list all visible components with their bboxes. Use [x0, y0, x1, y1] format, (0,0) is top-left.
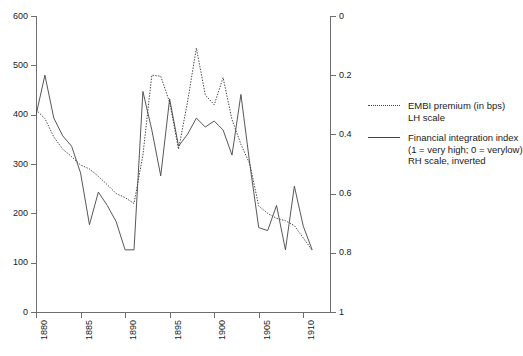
- chart-root: 0100200300400500600 00.20.40.60.81 18801…: [0, 0, 523, 356]
- tick-label: 0: [339, 12, 344, 21]
- tick-label: 600: [2, 12, 28, 21]
- tick-label: 1880: [40, 320, 49, 340]
- tick-mark: [36, 313, 37, 318]
- tick-mark: [259, 313, 260, 318]
- legend-item-financial-integration: Financial integration index (1 = very hi…: [368, 132, 523, 167]
- tick-label: 1900: [218, 320, 227, 340]
- legend-item-label-line1: Financial integration index: [408, 132, 523, 144]
- legend-item-label-line3: RH scale, inverted: [408, 155, 523, 167]
- tick-mark: [331, 134, 336, 135]
- legend-item-label-line2: LH scale: [408, 112, 523, 124]
- tick-mark: [81, 313, 82, 318]
- tick-label: 1905: [263, 320, 272, 340]
- tick-label: 0.2: [339, 71, 352, 80]
- tick-mark: [331, 253, 336, 254]
- tick-label: 0.4: [339, 130, 352, 139]
- tick-label: 1910: [307, 320, 316, 340]
- legend-item-label-line1: EMBI premium (in bps): [408, 100, 523, 112]
- series-embi-premium-line: [36, 48, 312, 250]
- tick-label: 1: [339, 308, 344, 317]
- tick-label: 0: [2, 308, 28, 317]
- tick-mark: [331, 75, 336, 76]
- tick-label: 1885: [85, 320, 94, 340]
- tick-mark: [331, 312, 336, 313]
- plot-area: [36, 16, 330, 312]
- tick-label: 0.6: [339, 189, 352, 198]
- tick-label: 1890: [129, 320, 138, 340]
- tick-mark: [125, 313, 126, 318]
- legend-dotted-line-icon: [368, 105, 400, 106]
- tick-label: 0.8: [339, 248, 352, 257]
- series-financial-integration-line: [36, 75, 312, 250]
- tick-label: 300: [2, 160, 28, 169]
- legend-item-label-line2: (1 = very high; 0 = verylow): [408, 144, 523, 156]
- tick-mark: [303, 313, 304, 318]
- tick-label: 200: [2, 209, 28, 218]
- chart-legend: EMBI premium (in bps) LH scale Financial…: [368, 100, 523, 176]
- tick-mark: [331, 16, 336, 17]
- tick-mark: [214, 313, 215, 318]
- tick-label: 400: [2, 110, 28, 119]
- tick-label: 1895: [174, 320, 183, 340]
- tick-mark: [331, 194, 336, 195]
- tick-label: 500: [2, 61, 28, 70]
- y-axis-right-line: [330, 16, 331, 312]
- tick-label: 100: [2, 258, 28, 267]
- legend-solid-line-icon: [368, 137, 400, 138]
- tick-mark: [170, 313, 171, 318]
- legend-item-embi-premium: EMBI premium (in bps) LH scale: [368, 100, 523, 123]
